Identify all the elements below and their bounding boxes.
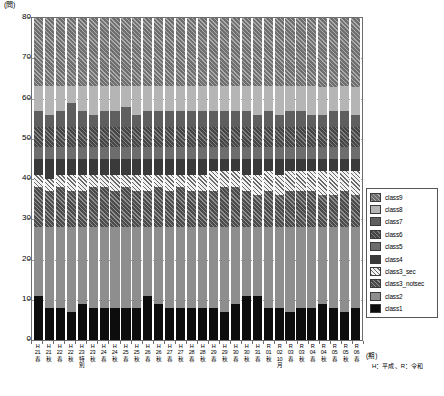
bar-segment-class3_notsec [56, 187, 65, 227]
bar-segment-class7 [253, 115, 262, 127]
bar-segment-class5 [209, 147, 218, 159]
bar-column[interactable] [67, 18, 76, 340]
legend-item-class7[interactable]: class7 [370, 216, 435, 228]
bar-column[interactable] [78, 18, 87, 340]
bar-segment-class4 [34, 159, 43, 175]
bar-segment-class4 [253, 159, 262, 175]
legend-item-class3_notsec[interactable]: class3_notsec [370, 278, 435, 290]
bar-column[interactable] [198, 18, 207, 340]
bar-column[interactable] [264, 18, 273, 340]
legend-swatch-icon [370, 304, 381, 313]
bar-segment-class3_notsec [198, 191, 207, 227]
legend-swatch-icon [370, 292, 381, 301]
legend-item-class6[interactable]: class6 [370, 228, 435, 240]
bar-segment-class3_notsec [176, 187, 185, 227]
bar-segment-class7 [275, 115, 284, 127]
bar-segment-class5 [318, 147, 327, 159]
bar-segment-class5 [187, 147, 196, 159]
bar-segment-class3_notsec [187, 191, 196, 227]
bar-segment-class3_notsec [307, 191, 316, 227]
bar-segment-class7 [340, 111, 349, 127]
bar-column[interactable] [100, 18, 109, 340]
bar-column[interactable] [165, 18, 174, 340]
legend-item-class3_sec[interactable]: class3_sec [370, 265, 435, 277]
bar-segment-class7 [220, 111, 229, 127]
bar-segment-class3_notsec [132, 191, 141, 227]
legend-item-class4[interactable]: class4 [370, 253, 435, 265]
bar-segment-class3_notsec [318, 195, 327, 227]
bar-segment-class8 [209, 86, 218, 110]
bar-column[interactable] [121, 18, 130, 340]
bar-segment-class7 [89, 115, 98, 127]
x-axis-tick-label: H 25 秋 [132, 343, 141, 385]
bar-column[interactable] [351, 18, 360, 340]
bar-segment-class3_sec [329, 171, 338, 195]
bar-segment-class1 [220, 312, 229, 340]
bar-segment-class7 [56, 111, 65, 127]
bar-segment-class5 [121, 147, 130, 159]
bar-column[interactable] [296, 18, 305, 340]
bar-segment-class2 [143, 227, 152, 295]
x-axis-tickmark [363, 341, 364, 344]
bar-series-container [32, 18, 362, 340]
bar-column[interactable] [285, 18, 294, 340]
bar-segment-class8 [110, 86, 119, 110]
bar-segment-class3_notsec [110, 191, 119, 227]
bar-column[interactable] [154, 18, 163, 340]
bar-segment-class5 [45, 147, 54, 159]
bar-column[interactable] [45, 18, 54, 340]
bar-segment-class5 [253, 147, 262, 159]
bar-column[interactable] [220, 18, 229, 340]
bar-column[interactable] [242, 18, 251, 340]
legend-label: class1 [385, 305, 403, 312]
bar-column[interactable] [89, 18, 98, 340]
x-axis-tick-label: H 22 春 [55, 343, 64, 385]
bar-segment-class8 [264, 86, 273, 110]
bar-segment-class2 [285, 227, 294, 312]
bar-segment-class9 [89, 18, 98, 86]
bar-segment-class1 [264, 308, 273, 340]
legend-item-class2[interactable]: class2 [370, 290, 435, 302]
legend-swatch-icon [370, 193, 381, 202]
bar-column[interactable] [132, 18, 141, 340]
bar-segment-class5 [351, 147, 360, 159]
bar-segment-class2 [132, 227, 141, 308]
bar-segment-class3_notsec [121, 187, 130, 227]
bar-column[interactable] [231, 18, 240, 340]
bar-segment-class6 [253, 127, 262, 147]
bar-segment-class2 [176, 227, 185, 308]
bar-segment-class6 [198, 127, 207, 147]
bar-column[interactable] [34, 18, 43, 340]
bar-column[interactable] [307, 18, 316, 340]
bar-segment-class7 [132, 115, 141, 127]
bar-column[interactable] [187, 18, 196, 340]
x-axis-tick-label: H 29 春 [209, 343, 218, 385]
x-axis-caption: (期) [366, 352, 377, 360]
bar-column[interactable] [340, 18, 349, 340]
legend-item-class8[interactable]: class8 [370, 203, 435, 215]
bar-segment-class3_notsec [296, 191, 305, 227]
bar-segment-class5 [220, 147, 229, 159]
bar-column[interactable] [329, 18, 338, 340]
legend-item-class1[interactable]: class1 [370, 303, 435, 315]
bar-column[interactable] [209, 18, 218, 340]
bar-column[interactable] [56, 18, 65, 340]
x-axis-tick-label: H 30 春 [231, 343, 240, 385]
bar-segment-class1 [253, 296, 262, 340]
bar-column[interactable] [143, 18, 152, 340]
bar-segment-class9 [329, 18, 338, 86]
bar-column[interactable] [176, 18, 185, 340]
x-axis-tick-label: R 04 春 [308, 343, 317, 385]
bar-segment-class1 [121, 308, 130, 340]
legend-swatch-icon [370, 230, 381, 239]
bar-segment-class6 [275, 127, 284, 147]
bar-column[interactable] [275, 18, 284, 340]
bar-column[interactable] [253, 18, 262, 340]
legend-item-class5[interactable]: class5 [370, 241, 435, 253]
bar-segment-class6 [34, 127, 43, 147]
bar-segment-class4 [56, 159, 65, 175]
bar-column[interactable] [318, 18, 327, 340]
bar-column[interactable] [110, 18, 119, 340]
legend-swatch-icon [370, 205, 381, 214]
legend-item-class9[interactable]: class9 [370, 191, 435, 203]
